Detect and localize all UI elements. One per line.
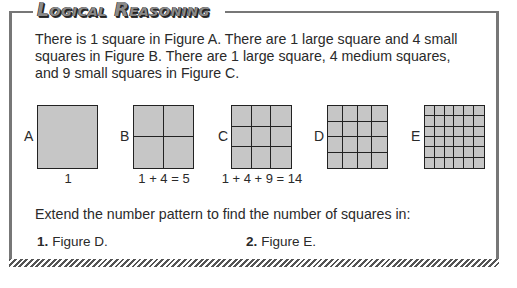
- grid-cell: [445, 137, 455, 147]
- grid-cell: [454, 158, 464, 168]
- figure-e-label: E: [411, 128, 420, 144]
- grid-cell: [232, 106, 252, 127]
- grid-cell: [328, 122, 343, 138]
- grid-cell: [38, 106, 97, 168]
- grid-cell: [252, 127, 272, 148]
- exercise-2-text: Figure E.: [261, 234, 316, 249]
- grid-cell: [445, 127, 455, 137]
- grid-cell: [454, 127, 464, 137]
- grid-cell: [252, 147, 272, 168]
- grid-cell: [328, 106, 343, 122]
- grid-cell: [232, 147, 252, 168]
- figure-e: [424, 105, 485, 169]
- hatched-footer-band: [9, 259, 499, 267]
- grid-cell: [134, 137, 164, 168]
- grid-cell: [425, 147, 435, 157]
- figure-d: [327, 105, 388, 169]
- exercise-1-text: Figure D.: [52, 234, 108, 249]
- grid-cell: [474, 116, 484, 126]
- grid-cell: [372, 137, 387, 153]
- grid-cell: [464, 137, 474, 147]
- grid-cell: [425, 116, 435, 126]
- figure-a-caption: 1: [23, 171, 113, 186]
- grid-cell: [358, 122, 373, 138]
- intro-line-1: There is 1 square in Figure A. There are…: [35, 31, 495, 48]
- exercise-1: 1.Figure D.: [37, 234, 108, 249]
- grid-cell: [372, 106, 387, 122]
- grid-cell: [474, 147, 484, 157]
- grid-cell: [454, 147, 464, 157]
- grid-cell: [435, 127, 445, 137]
- grid-cell: [474, 106, 484, 116]
- grid-cell: [328, 153, 343, 169]
- grid-cell: [454, 137, 464, 147]
- figure-a-label: A: [24, 128, 33, 144]
- exercise-2-number: 2.: [246, 234, 257, 249]
- figure-c: [231, 105, 292, 169]
- grid-cell: [232, 127, 252, 148]
- grid-cell: [343, 122, 358, 138]
- grid-cell: [358, 106, 373, 122]
- grid-cell: [425, 127, 435, 137]
- grid-cell: [474, 137, 484, 147]
- grid-cell: [464, 147, 474, 157]
- intro-text: There is 1 square in Figure A. There are…: [35, 31, 495, 82]
- grid-cell: [435, 116, 445, 126]
- grid-cell: [343, 153, 358, 169]
- grid-cell: [271, 106, 291, 127]
- section-title: Logical Reasoning: [37, 0, 210, 20]
- grid-cell: [464, 106, 474, 116]
- grid-cell: [164, 106, 194, 137]
- grid-cell: [435, 137, 445, 147]
- grid-cell: [464, 127, 474, 137]
- grid-cell: [435, 147, 445, 157]
- figure-c-label: C: [218, 128, 228, 144]
- grid-cell: [445, 116, 455, 126]
- figure-b-caption: 1 + 4 = 5: [119, 171, 209, 186]
- intro-line-2: squares in Figure B. There are 1 large s…: [35, 48, 495, 65]
- grid-cell: [464, 158, 474, 168]
- grid-cell: [343, 137, 358, 153]
- grid-cell: [454, 106, 464, 116]
- grid-cell: [252, 106, 272, 127]
- grid-cell: [445, 106, 455, 116]
- grid-cell: [425, 158, 435, 168]
- grid-cell: [372, 153, 387, 169]
- grid-cell: [445, 158, 455, 168]
- grid-cell: [343, 106, 358, 122]
- grid-cell: [445, 147, 455, 157]
- grid-cell: [474, 158, 484, 168]
- grid-cell: [425, 106, 435, 116]
- grid-cell: [435, 158, 445, 168]
- figure-a: [37, 105, 98, 169]
- grid-cell: [454, 116, 464, 126]
- figure-c-caption: 1 + 4 + 9 = 14: [204, 171, 320, 186]
- grid-cell: [271, 147, 291, 168]
- grid-cell: [271, 127, 291, 148]
- grid-cell: [358, 153, 373, 169]
- question-prompt: Extend the number pattern to find the nu…: [35, 206, 410, 222]
- figure-d-label: D: [314, 128, 324, 144]
- grid-cell: [328, 137, 343, 153]
- grid-cell: [164, 137, 194, 168]
- grid-cell: [474, 127, 484, 137]
- intro-line-3: and 9 small squares in Figure C.: [35, 65, 495, 82]
- grid-cell: [372, 122, 387, 138]
- exercise-1-number: 1.: [37, 234, 48, 249]
- grid-cell: [358, 137, 373, 153]
- grid-cell: [464, 116, 474, 126]
- grid-cell: [134, 106, 164, 137]
- figure-b: [133, 105, 194, 169]
- grid-cell: [425, 137, 435, 147]
- figure-b-label: B: [120, 128, 129, 144]
- grid-cell: [435, 106, 445, 116]
- exercise-2: 2.Figure E.: [246, 234, 316, 249]
